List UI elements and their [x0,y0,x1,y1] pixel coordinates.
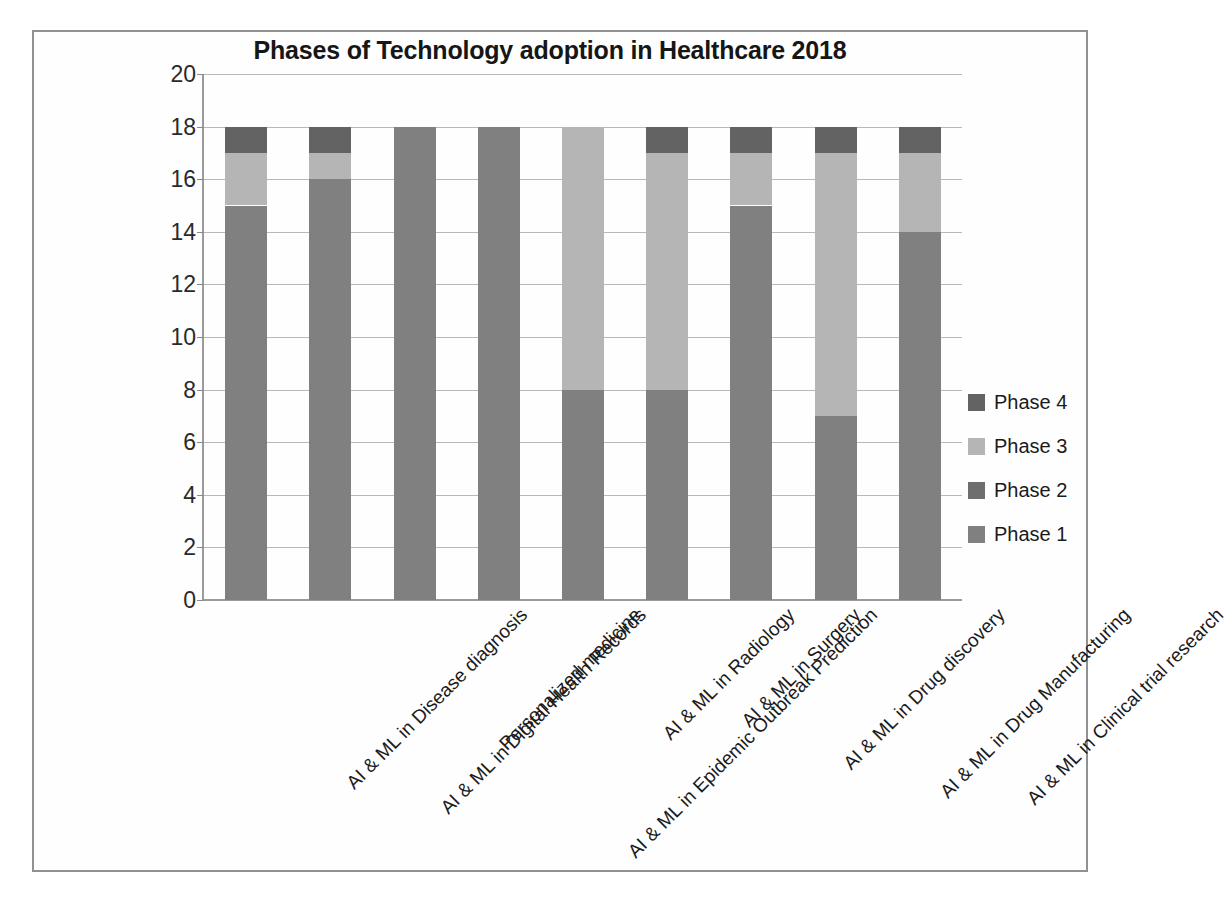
y-axis-tick-label: 12 [152,273,196,296]
bar-column[interactable] [309,74,351,600]
legend-item[interactable]: Phase 2 [968,468,1088,512]
bar-segment-phase-1[interactable] [730,206,772,601]
legend-swatch-icon [968,526,985,543]
bar-segment-phase-4[interactable] [815,127,857,153]
y-axis-tick-label: 2 [152,536,196,559]
bar-segment-phase-4[interactable] [225,127,267,153]
bar-segment-phase-1[interactable] [309,179,351,600]
y-axis-tick [197,547,204,548]
bar-column[interactable] [478,74,520,600]
y-axis-tick [197,390,204,391]
y-axis-tick [197,495,204,496]
y-axis-tick-label: 4 [152,483,196,506]
y-axis-tick-label: 20 [152,63,196,86]
bar-segment-phase-4[interactable] [646,127,688,153]
y-axis-tick [197,442,204,443]
legend-swatch-icon [968,482,985,499]
legend-item[interactable]: Phase 4 [968,380,1088,424]
bar-segment-phase-1[interactable] [815,416,857,600]
bar-segment-phase-1[interactable] [562,390,604,600]
plot-area [202,74,960,600]
bar-segment-phase-3[interactable] [309,153,351,179]
bar-column[interactable] [394,74,436,600]
legend-label: Phase 1 [994,523,1067,546]
bar-segment-phase-1[interactable] [394,127,436,600]
bar-column[interactable] [646,74,688,600]
bar-column[interactable] [562,74,604,600]
legend-item[interactable]: Phase 3 [968,424,1088,468]
y-axis-tick [197,232,204,233]
y-axis-tick-label: 14 [152,220,196,243]
y-axis-tick-label: 0 [152,589,196,612]
legend-item[interactable]: Phase 1 [968,512,1088,556]
y-axis-tick [197,284,204,285]
bar-segment-phase-3[interactable] [899,153,941,232]
bar-segment-phase-4[interactable] [309,127,351,153]
legend-label: Phase 3 [994,435,1067,458]
bar-column[interactable] [899,74,941,600]
bar-segment-phase-1[interactable] [225,206,267,601]
bar-segment-phase-4[interactable] [730,127,772,153]
y-axis-tick [197,337,204,338]
y-axis-tick [197,74,204,75]
bar-column[interactable] [730,74,772,600]
chart-title: Phases of Technology adoption in Healthc… [190,36,910,65]
y-axis-tick-label: 10 [152,326,196,349]
y-axis-tick-label: 8 [152,378,196,401]
bar-segment-phase-1[interactable] [899,232,941,600]
legend-label: Phase 2 [994,479,1067,502]
chart-legend: Phase 4Phase 3Phase 2Phase 1 [968,380,1088,556]
x-axis: AI & ML in Disease diagnosisAI & ML in D… [202,600,960,820]
y-axis-tick [197,127,204,128]
bar-column[interactable] [815,74,857,600]
bar-segment-phase-1[interactable] [646,390,688,600]
y-axis-tick-label: 18 [152,115,196,138]
y-axis-tick-label: 16 [152,168,196,191]
x-axis-tick-label: AI & ML in Clinical trial research [1023,604,1228,809]
bar-segment-phase-4[interactable] [899,127,941,153]
y-axis-tick [197,179,204,180]
legend-label: Phase 4 [994,391,1067,414]
legend-swatch-icon [968,438,985,455]
bar-segment-phase-3[interactable] [225,153,267,206]
y-axis-tick-label: 6 [152,431,196,454]
bar-segment-phase-3[interactable] [562,127,604,390]
bar-segment-phase-3[interactable] [815,153,857,416]
bar-segment-phase-3[interactable] [730,153,772,206]
bar-segment-phase-3[interactable] [646,153,688,390]
y-axis: 02468101214161820 [146,74,196,600]
x-axis-tick-label: AI & ML in Surgery [738,604,866,732]
legend-swatch-icon [968,394,985,411]
bar-column[interactable] [225,74,267,600]
bar-segment-phase-1[interactable] [478,127,520,600]
